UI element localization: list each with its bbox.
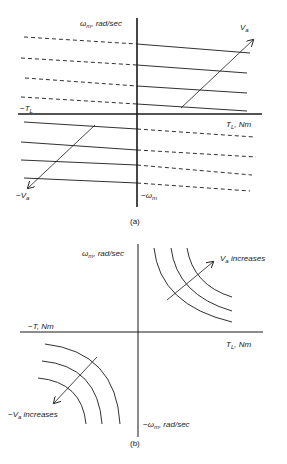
a-neg-omega-label: −ωm [141,191,157,201]
b-va-increase-label: Va increases [220,254,265,264]
a-y-axis-label: ωm, rad/sec [80,19,122,29]
b-neg-omega-label: −ωm, rad/sec [143,420,190,430]
figure-b: ωm, rad/sec Va increases −T, Nm TL, Nm −… [8,244,265,448]
a-lower-dashed-lines [137,129,256,191]
b-y-axis-label: ωm, rad/sec [82,249,124,259]
b-va-increase-arrow [167,262,213,300]
a-neg-va-label: −Va [16,191,30,201]
b-neg-va-increase-label: −Va increases [8,410,58,420]
b-neg-t-label: −T, Nm [28,322,54,331]
a-va-label: Va [240,23,249,33]
diagram-canvas: ωm, rad/sec Va −TL TL, Nm −Va −ωm (a) [0,0,287,464]
a-upper-dashed-lines [21,37,137,104]
a-neg-va-arrow [28,125,95,188]
a-lower-solid-lines [21,122,137,183]
a-neg-tl-label: −TL [20,104,33,114]
a-upper-solid-lines [137,44,250,111]
a-caption: (a) [130,217,140,226]
a-x-axis-label: TL, Nm [226,120,251,130]
figure-a: ωm, rad/sec Va −TL TL, Nm −Va −ωm (a) [16,18,262,226]
b-neg-va-increase-arrow [54,357,97,403]
b-caption: (b) [130,439,140,448]
b-x-axis-label: TL, Nm [226,340,251,350]
